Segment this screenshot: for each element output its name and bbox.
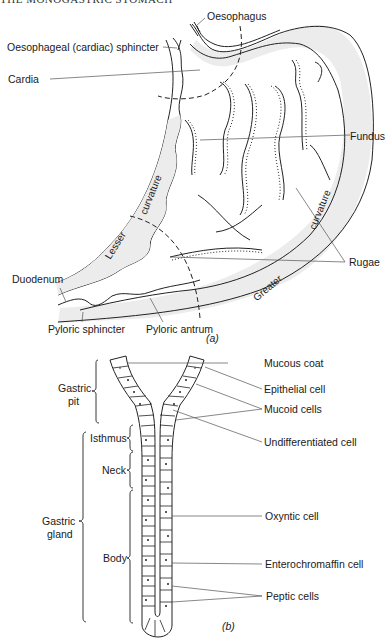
label-fundus: Fundus (350, 131, 385, 142)
bracket-isthmus (127, 425, 133, 451)
label-duodenum: Duodenum (12, 274, 63, 285)
bracket-gastric-gland (79, 432, 86, 622)
label-peptic-cells: Peptic cells (266, 591, 319, 602)
label-cardiac-sphincter: Oesophageal (cardiac) sphincter (7, 42, 159, 53)
label-gastric-gland-line2: gland (47, 529, 73, 540)
bracket-neck (127, 452, 133, 488)
label-pyloric-antrum: Pyloric antrum (146, 324, 213, 335)
label-pyloric-sphincter: Pyloric sphincter (48, 324, 125, 335)
caption-a: (a) (206, 332, 219, 344)
label-gastric-pit-line1: Gastric (58, 383, 91, 394)
gastric-gland-drawing (79, 356, 262, 637)
bracket-gastric-pit (92, 360, 99, 423)
bracket-body (127, 490, 133, 623)
label-gastric-gland-line1: Gastric (42, 516, 75, 527)
label-epithelial-cell: Epithelial cell (264, 384, 325, 395)
label-cardia: Cardia (8, 74, 39, 85)
label-isthmus: Isthmus (90, 433, 127, 444)
label-gastric-pit-line2: pit (68, 396, 79, 407)
label-enterochromaffin-cell: Enterochromaffin cell (265, 559, 363, 570)
label-body: Body (103, 553, 127, 564)
label-mucous-coat: Mucous coat (264, 358, 324, 369)
label-undifferentiated-cell: Undifferentiated cell (264, 437, 357, 448)
label-mucoid-cells: Mucoid cells (264, 404, 322, 415)
stomach-diagram-drawing (0, 0, 392, 639)
caption-b: (b) (222, 620, 235, 632)
label-neck: Neck (102, 465, 126, 476)
label-rugae: Rugae (349, 257, 380, 268)
label-oxyntic-cell: Oxyntic cell (265, 511, 319, 522)
label-oesophagus: Oesophagus (207, 11, 267, 22)
